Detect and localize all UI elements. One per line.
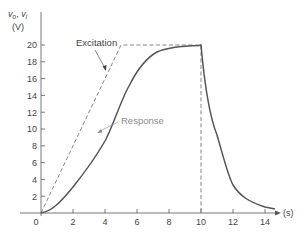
svg-text:12: 12 xyxy=(27,108,37,118)
svg-text:4: 4 xyxy=(102,217,107,227)
svg-text:10: 10 xyxy=(196,217,206,227)
x-axis-arrow-icon xyxy=(275,211,281,216)
y-axis-unit: (V) xyxy=(12,22,24,32)
excitation-label: Excitation xyxy=(76,37,117,48)
svg-text:12: 12 xyxy=(228,217,238,227)
svg-text:18: 18 xyxy=(27,57,37,67)
svg-text:2: 2 xyxy=(32,192,37,202)
svg-text:2: 2 xyxy=(70,217,75,227)
y-ticks xyxy=(41,45,45,196)
step-response-chart: vo, vi (V) (s) 2 4 6 8 10 12 14 16 18 20 xyxy=(0,0,306,236)
response-arrowhead-icon xyxy=(97,129,103,133)
svg-text:20: 20 xyxy=(27,40,37,50)
svg-text:0: 0 xyxy=(33,217,38,227)
excitation-series xyxy=(41,45,201,213)
response-pointer xyxy=(100,122,118,131)
svg-text:14: 14 xyxy=(260,217,270,227)
svg-text:8: 8 xyxy=(166,217,171,227)
svg-text:16: 16 xyxy=(27,74,37,84)
x-axis-unit: (s) xyxy=(283,208,294,218)
svg-text:14: 14 xyxy=(27,91,37,101)
excitation-pointer xyxy=(95,50,105,68)
response-series xyxy=(41,45,275,213)
excitation-arrowhead-icon xyxy=(103,65,107,71)
svg-text:6: 6 xyxy=(134,217,139,227)
x-ticks xyxy=(73,209,265,213)
x-tick-labels: 0 2 4 6 8 10 12 14 xyxy=(33,217,270,227)
y-tick-labels: 2 4 6 8 10 12 14 16 18 20 xyxy=(27,40,37,201)
y-axis-label: vo, vi xyxy=(8,9,28,20)
svg-text:4: 4 xyxy=(32,175,37,185)
response-label: Response xyxy=(121,115,164,126)
svg-text:8: 8 xyxy=(32,141,37,151)
svg-text:10: 10 xyxy=(27,124,37,134)
svg-text:6: 6 xyxy=(32,158,37,168)
